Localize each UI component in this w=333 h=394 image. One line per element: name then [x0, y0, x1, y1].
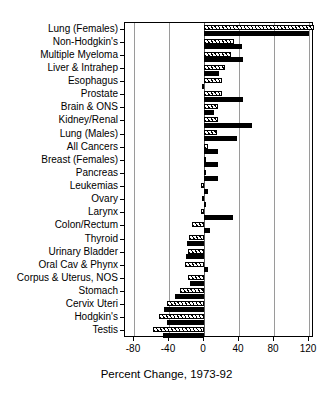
bar-hatched: [159, 314, 205, 319]
x-axis-tick-label-120: 120: [288, 343, 328, 354]
y-tick-mark: [120, 330, 124, 331]
y-tick-mark: [120, 199, 124, 200]
bar-row: [125, 312, 312, 325]
x-axis-tick-label-80: 80: [253, 343, 293, 354]
bar-hatched: [204, 52, 231, 57]
bar-hatched: [188, 275, 204, 280]
bar-row: [125, 62, 312, 75]
bar-row: [125, 325, 312, 338]
y-axis-label-pancreas: Pancreas: [0, 168, 118, 178]
y-axis-label-kidney-renal: Kidney/Renal: [0, 115, 118, 125]
y-axis-label-hodgkin-s: Hodgkin's: [0, 312, 118, 322]
y-axis-label-leukemias: Leukemias: [0, 181, 118, 191]
bar-row: [125, 36, 312, 49]
bar-hatched: [189, 235, 204, 240]
bar-hatched: [204, 157, 206, 162]
y-tick-mark: [120, 81, 124, 82]
y-tick-mark: [120, 29, 124, 30]
y-axis-label-brain-ons: Brain & ONS: [0, 102, 118, 112]
y-tick-mark: [120, 107, 124, 108]
bar-row: [125, 220, 312, 233]
x-tick-mark-120: [308, 337, 309, 341]
x-tick-mark-80: [273, 337, 274, 341]
bar-row: [125, 181, 312, 194]
bar-row: [125, 128, 312, 141]
y-axis-label-testis: Testis: [0, 325, 118, 335]
y-tick-mark: [120, 186, 124, 187]
y-axis-label-cervix-uteri: Cervix Uteri: [0, 299, 118, 309]
bar-hatched: [201, 183, 205, 188]
y-tick-mark: [120, 304, 124, 305]
bar-hatched: [185, 262, 204, 267]
y-axis-label-oral-cav-phynx: Oral Cav & Phynx: [0, 260, 118, 270]
bar-hatched: [192, 222, 204, 227]
y-tick-mark: [120, 173, 124, 174]
y-axis-label-thyroid: Thyroid: [0, 234, 118, 244]
y-tick-mark: [120, 212, 124, 213]
bar-hatched: [153, 327, 204, 332]
bar-row: [125, 154, 312, 167]
y-axis-label-larynx: Larynx: [0, 207, 118, 217]
y-axis-label-breast-females: Breast (Females): [0, 155, 118, 165]
y-tick-mark: [120, 252, 124, 253]
x-axis-tick-label--40: -40: [148, 343, 188, 354]
plot-area: [124, 22, 313, 337]
bar-solid: [163, 333, 204, 338]
x-tick-mark--80: [133, 337, 134, 341]
y-tick-mark: [120, 55, 124, 56]
x-axis-title: Percent Change, 1973-92: [0, 368, 333, 380]
bar-row: [125, 89, 312, 102]
bar-hatched: [204, 170, 206, 175]
x-axis-tick-label-0: 0: [183, 343, 223, 354]
y-axis-label-urinary-bladder: Urinary Bladder: [0, 247, 118, 257]
bar-row: [125, 49, 312, 62]
bar-hatched: [188, 249, 204, 254]
y-tick-mark: [120, 317, 124, 318]
x-axis-tick-label-40: 40: [218, 343, 258, 354]
x-axis-tick-label--80: -80: [113, 343, 153, 354]
y-axis-label-all-cancers: All Cancers: [0, 142, 118, 152]
bar-row: [125, 246, 312, 259]
y-axis-label-liver-intrahep: Liver & Intrahep: [0, 63, 118, 73]
y-axis-label-multiple-myeloma: Multiple Myeloma: [0, 50, 118, 60]
y-axis-label-lung-males: Lung (Males): [0, 129, 118, 139]
y-axis-label-corpus-uterus-nos: Corpus & Uterus, NOS: [0, 273, 118, 283]
y-axis-label-prostate: Prostate: [0, 89, 118, 99]
x-tick-mark-0: [203, 337, 204, 341]
bar-row: [125, 233, 312, 246]
y-tick-mark: [120, 68, 124, 69]
y-axis-label-non-hodgkin-s: Non-Hodgkin's: [0, 37, 118, 47]
bar-hatched: [204, 130, 217, 135]
bar-row: [125, 141, 312, 154]
y-axis-label-lung-females: Lung (Females): [0, 24, 118, 34]
bar-row: [125, 259, 312, 272]
bar-row: [125, 167, 312, 180]
y-tick-mark: [120, 160, 124, 161]
bar-row: [125, 194, 312, 207]
bar-row: [125, 272, 312, 285]
y-tick-mark: [120, 225, 124, 226]
x-tick-mark--40: [168, 337, 169, 341]
y-tick-mark: [120, 265, 124, 266]
y-tick-mark: [120, 147, 124, 148]
bar-hatched: [202, 196, 204, 201]
y-axis-label-ovary: Ovary: [0, 194, 118, 204]
bar-row: [125, 115, 312, 128]
bar-hatched: [167, 301, 204, 306]
y-tick-mark: [120, 94, 124, 95]
y-tick-mark: [120, 134, 124, 135]
y-tick-mark: [120, 239, 124, 240]
chart-figure: Percent Change, 1973-92 Lung (Females)No…: [0, 0, 333, 394]
bar-hatched: [204, 144, 208, 149]
bar-hatched: [204, 65, 225, 70]
bar-row: [125, 102, 312, 115]
bar-row: [125, 207, 312, 220]
bar-row: [125, 23, 312, 36]
bar-hatched: [204, 117, 218, 122]
bar-hatched: [201, 209, 204, 214]
bar-row: [125, 299, 312, 312]
y-tick-mark: [120, 42, 124, 43]
bar-row: [125, 286, 312, 299]
y-axis-label-stomach: Stomach: [0, 286, 118, 296]
x-tick-mark-40: [238, 337, 239, 341]
